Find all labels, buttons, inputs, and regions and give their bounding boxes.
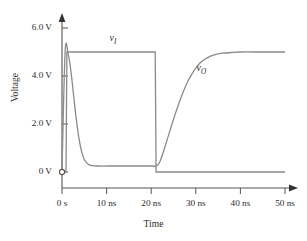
y-tick-label: 6.0 V [0, 23, 52, 32]
x-tick-label: 50 ns [262, 199, 307, 208]
x-axis-ticks [62, 188, 285, 194]
x-tick-label: 0 s [39, 199, 85, 208]
axis-lines [59, 13, 298, 191]
curve-label-vI: vI [110, 33, 117, 46]
y-axis-title: Voltage [9, 53, 20, 123]
x-axis-arrowhead [289, 185, 298, 192]
curve-label-vO: vO [196, 63, 206, 76]
chart-figure: 0 V2.0 V4.0 V6.0 V 0 s10 ns20 ns30 ns40 … [0, 0, 307, 241]
origin-marker [59, 169, 64, 174]
series-line-vI [62, 52, 285, 172]
x-axis-title: Time [0, 218, 307, 229]
y-axis-arrowhead [59, 13, 66, 22]
curve-label-subscript: O [201, 68, 206, 76]
x-tick-label: 40 ns [217, 199, 263, 208]
series-line-vO [62, 43, 285, 172]
curve-label-subscript: I [114, 38, 116, 46]
y-tick-label: 0 V [0, 167, 52, 176]
x-tick-label: 20 ns [128, 199, 174, 208]
x-tick-label: 30 ns [173, 199, 219, 208]
data-series-group [62, 43, 285, 172]
x-tick-label: 10 ns [84, 199, 130, 208]
